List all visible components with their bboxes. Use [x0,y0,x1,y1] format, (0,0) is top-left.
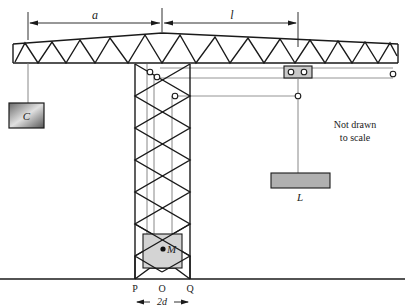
jib-truss [13,33,398,63]
crane-diagram: a l C [0,0,405,307]
point-p-label: P [132,283,138,294]
tower-mass-label: M [166,243,177,255]
center-of-mass-dot [160,246,165,251]
dimension-l-label: l [230,8,234,22]
trolley-track [160,68,393,96]
base-width-label: 2d [157,296,168,307]
counterweight-label: C [23,110,31,122]
note-line-1: Not drawn [334,119,377,130]
load-label: L [296,191,303,203]
load-block [271,173,330,188]
point-q-label: Q [186,283,194,294]
point-o-label: O [158,283,165,294]
jib-end-pulley [390,71,396,77]
hook-pulley [295,93,301,99]
dimension-a-label: a [92,8,98,22]
dimension-lines [28,8,298,47]
note-line-2: to scale [340,132,371,143]
